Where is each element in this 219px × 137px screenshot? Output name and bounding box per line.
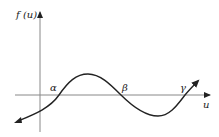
root-beta-label: β: [121, 82, 128, 93]
root-alpha-label: α: [50, 82, 57, 93]
function-curve: [18, 74, 198, 121]
curve-start-arrow-icon: [14, 117, 22, 123]
root-gamma-label: γ: [180, 82, 186, 93]
plot-svg: f (u) u α β γ: [0, 0, 219, 137]
function-plot-diagram: f (u) u α β γ: [0, 0, 219, 137]
x-axis-label: u: [203, 99, 209, 110]
y-axis-label: f (u): [15, 9, 37, 20]
